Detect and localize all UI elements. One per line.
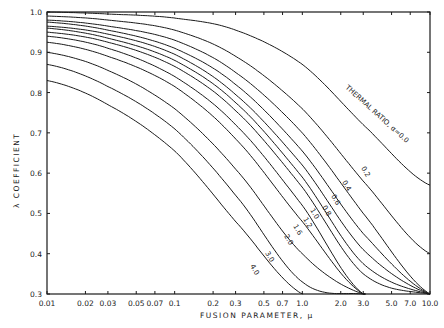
curve-0.6 (47, 22, 430, 294)
curve-4.0 (47, 64, 365, 294)
curve-1.0 (47, 28, 430, 294)
x-tick-label: 3.0 (357, 299, 369, 308)
curve-1.2 (47, 32, 430, 294)
curve-label: 3.0 (263, 250, 275, 264)
curves-group (47, 12, 430, 294)
curve-0.2 (47, 16, 430, 254)
y-tick-label: 0.8 (30, 89, 42, 98)
curve-1.6 (47, 36, 365, 294)
x-tick-label: 0.1 (169, 299, 181, 308)
y-tick-label: 0.3 (30, 290, 42, 299)
curve-THERMAL RATIO, α=0.0 (47, 12, 430, 185)
x-tick-label: 5.0 (386, 299, 398, 308)
y-tick-label: 0.5 (30, 209, 42, 218)
x-tick-label: 0.3 (230, 299, 242, 308)
x-tick-label: 0.5 (258, 299, 270, 308)
y-tick-label: 0.4 (30, 250, 42, 259)
y-tick-label: 1.0 (30, 8, 42, 17)
x-tick-label: 0.02 (77, 299, 94, 308)
x-tick-label: 0.03 (100, 299, 117, 308)
x-tick-label: 0.01 (39, 299, 56, 308)
curve-label: 0.2 (359, 165, 371, 179)
curve-label: 4.0 (248, 263, 260, 277)
y-tick-label: 0.6 (30, 169, 42, 178)
y-axis-title: λ COEFFICIENT (12, 133, 21, 208)
curve-label: 0.4 (340, 179, 353, 193)
x-tick-label: 1.0 (296, 299, 308, 308)
x-tick-label: 0.2 (207, 299, 219, 308)
curve-0.4 (47, 20, 430, 294)
curve-unlabeled (47, 81, 303, 295)
curve-label: 0.6 (329, 193, 342, 207)
lambda-coefficient-chart: 0.010.020.030.050.070.10.20.30.50.71.02.… (0, 0, 444, 328)
curve-label: 1.2 (301, 216, 313, 230)
curve-label: 1.6 (291, 223, 304, 237)
x-tick-label: 2.0 (335, 299, 347, 308)
y-tick-label: 0.9 (30, 48, 42, 57)
x-tick-label: 10.0 (422, 299, 439, 308)
curve-3.0 (47, 52, 365, 294)
curve-0.8 (47, 26, 430, 294)
x-tick-label: 0.05 (128, 299, 145, 308)
x-tick-label: 0.7 (277, 299, 289, 308)
y-tick-label: 0.7 (30, 129, 42, 138)
plot-frame (47, 12, 430, 294)
curve-label: 2.0 (282, 233, 294, 247)
x-tick-label: 7.0 (404, 299, 416, 308)
x-tick-label: 0.07 (147, 299, 164, 308)
x-axis-title: FUSION PARAMETER, μ (200, 311, 314, 320)
